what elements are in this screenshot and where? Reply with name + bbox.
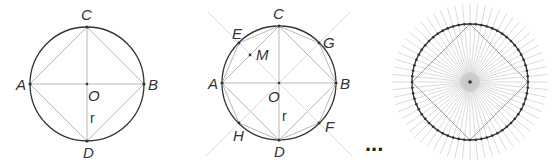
label-b: B bbox=[340, 75, 350, 92]
ellipsis: ... bbox=[365, 131, 383, 156]
label-d: D bbox=[274, 143, 285, 160]
label-a: A bbox=[15, 76, 26, 93]
label-e: E bbox=[232, 25, 243, 42]
label-o: O bbox=[88, 87, 100, 104]
label-g: G bbox=[323, 34, 335, 51]
label-c: C bbox=[273, 5, 284, 22]
label-m: M bbox=[256, 46, 269, 63]
label-r: r bbox=[282, 108, 287, 124]
label-h: H bbox=[233, 127, 244, 144]
figure-octagon: C E G M A B O r F H D bbox=[206, 5, 352, 160]
label-a: A bbox=[207, 75, 218, 92]
figure-square: C A B D O r bbox=[15, 6, 158, 161]
label-b: B bbox=[148, 76, 158, 93]
label-c: C bbox=[81, 6, 92, 23]
label-o: O bbox=[268, 88, 280, 105]
figure-polygon-many bbox=[392, 4, 548, 160]
diagram-canvas: C A B D O r C E G M A B O r F H D bbox=[0, 0, 554, 164]
label-f: F bbox=[325, 118, 335, 135]
label-r: r bbox=[90, 110, 95, 126]
label-d: D bbox=[83, 144, 94, 161]
